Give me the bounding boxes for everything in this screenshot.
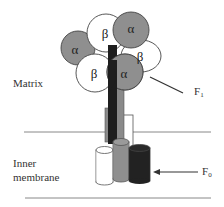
- inner-membrane-label-line1: Inner: [13, 157, 37, 169]
- label-beta-bottom-left: β: [91, 66, 98, 81]
- atp-synthase-diagram: α β α β β α Matrix Inner membrane F1 F0: [0, 0, 224, 207]
- label-beta-right: β: [137, 49, 144, 64]
- cylinder-white: [96, 147, 113, 186]
- label-alpha-bottom: α: [121, 66, 128, 81]
- matrix-label: Matrix: [13, 77, 43, 89]
- f0-label: F0: [202, 165, 212, 179]
- label-beta-top: β: [102, 26, 109, 41]
- label-alpha-top-right: α: [128, 21, 135, 36]
- cylinder-dark: [129, 145, 150, 185]
- label-alpha-left: α: [72, 42, 79, 57]
- f1-label: F1: [194, 85, 204, 99]
- f0-arrow-head-icon: [153, 169, 160, 175]
- f1-pointer-line: [150, 77, 183, 93]
- inner-membrane-label-line2: membrane: [13, 171, 60, 183]
- cylinder-gray: [113, 139, 129, 183]
